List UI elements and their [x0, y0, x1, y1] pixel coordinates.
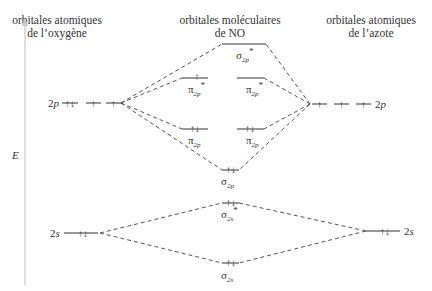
nitrogen-2p-electrons-2: ↑: [339, 99, 344, 110]
sigma2p-label: σ2p: [221, 175, 234, 190]
oxygen-2s-label: 2s: [50, 227, 60, 239]
pi2p-a-electrons: ↑↓: [190, 123, 200, 134]
pi2p-a-label: π2p: [188, 134, 201, 149]
sigma2p-star-label: σ2p*: [236, 46, 254, 64]
nitrogen-2p-label: 2p: [375, 98, 387, 110]
oxygen-2s-electrons: ↑↓: [78, 228, 88, 239]
nitrogen-2p: ↑ ↑ ↑ 2p: [312, 98, 387, 110]
pi2p-b-label: π2p: [246, 134, 259, 149]
correlation-lines: [100, 44, 366, 263]
nitrogen-2p-electrons-1: ↑: [317, 99, 322, 110]
nitrogen-2s-electrons: ↑↓: [380, 226, 390, 237]
nitrogen-2p-electrons-3: ↑: [361, 99, 366, 110]
pi2p-star-b-label: π2p*: [246, 80, 264, 98]
oxygen-2s: 2s ↑↓: [50, 227, 98, 239]
sigma2s-electrons: ↑↓: [226, 257, 236, 268]
energy-axis-label: E: [11, 149, 19, 161]
oxygen-2p-electrons-1: ↑↓: [65, 98, 75, 109]
pi2p-b-electrons: ↑↓: [245, 123, 255, 134]
nitrogen-2s: ↑↓ 2s: [366, 225, 414, 237]
oxygen-2p-label: 2p: [48, 97, 60, 109]
sigma2s-label: σ2s: [221, 269, 233, 284]
sigma2p-electrons: ↑↓: [226, 164, 236, 175]
energy-axis: E: [11, 18, 28, 285]
oxygen-2p-electrons-3: ↑: [111, 98, 116, 109]
pi2p-star-a-label: π2p*: [188, 80, 206, 98]
mo-diagram: E 2p ↑↓ ↑ ↑ ↑ ↑ ↑ 2p: [0, 0, 432, 291]
pi2p-star-a-electrons: ↑: [195, 71, 200, 82]
oxygen-2p-electrons-2: ↑: [91, 98, 96, 109]
oxygen-2p: 2p ↑↓ ↑ ↑: [48, 97, 121, 109]
nitrogen-2s-label: 2s: [404, 225, 414, 237]
